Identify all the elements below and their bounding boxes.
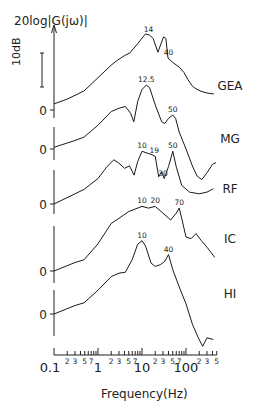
minor-tick-label: 7: [89, 357, 94, 366]
peak-label: 20: [150, 196, 160, 205]
trace-mg: [54, 85, 216, 180]
peak-label: 10: [137, 231, 147, 240]
trace-gea: [54, 34, 214, 104]
trace-label-rf: RF: [222, 182, 237, 196]
y-axis-label: 20log|G(jω)|: [14, 14, 88, 28]
minor-tick-label: 5: [214, 357, 219, 366]
minor-tick-label: 7: [177, 357, 182, 366]
zero-label: 0: [39, 308, 47, 322]
minor-tick-label: 2: [197, 357, 202, 366]
annotations: 000000.11101002357235723572351440GEA12.5…: [39, 25, 243, 375]
x-axis-label: Frequency(Hz): [101, 387, 188, 401]
zero-label: 0: [39, 198, 47, 212]
zero-label: 0: [39, 104, 47, 118]
trace-hi: [54, 241, 213, 347]
bode-magnitude-chart: 000000.11101002357235723572351440GEA12.5…: [0, 0, 264, 409]
minor-tick-label: 5: [170, 357, 175, 366]
minor-tick-label: 2: [153, 357, 158, 366]
peak-label: 50: [168, 105, 178, 114]
peak-label: 10: [137, 196, 147, 205]
trace-label-hi: HI: [224, 287, 237, 301]
zero-label: 0: [39, 265, 47, 279]
minor-tick-label: 2: [109, 357, 114, 366]
minor-tick-label: 2: [65, 357, 70, 366]
peak-label: 40: [164, 245, 174, 254]
minor-tick-label: 3: [73, 357, 78, 366]
peak-label: 12.5: [138, 75, 155, 84]
minor-tick-label: 5: [82, 357, 87, 366]
trace-label-ic: IC: [224, 232, 236, 246]
minor-tick-label: 3: [117, 357, 122, 366]
peak-label: 19: [149, 146, 159, 155]
peak-label: 10: [137, 141, 147, 150]
peak-label: 70: [174, 198, 184, 207]
scale-bar-label: 10dB: [10, 37, 23, 66]
major-tick-label: 1: [94, 360, 102, 375]
trace-ic: [54, 206, 215, 271]
peak-label: 30: [158, 169, 168, 178]
trace-label-mg: MG: [220, 132, 240, 146]
minor-tick-label: 3: [161, 357, 166, 366]
trace-label-gea: GEA: [217, 79, 243, 93]
zero-label: 0: [39, 143, 47, 157]
minor-tick-label: 7: [133, 357, 138, 366]
peak-label: 14: [144, 25, 154, 34]
minor-tick-label: 3: [205, 357, 210, 366]
major-tick-label: 0.1: [40, 360, 61, 375]
peak-label: 40: [164, 48, 174, 57]
axes: [40, 25, 217, 355]
traces: [54, 34, 216, 347]
peak-label: 50: [168, 141, 178, 150]
minor-tick-label: 5: [126, 357, 131, 366]
